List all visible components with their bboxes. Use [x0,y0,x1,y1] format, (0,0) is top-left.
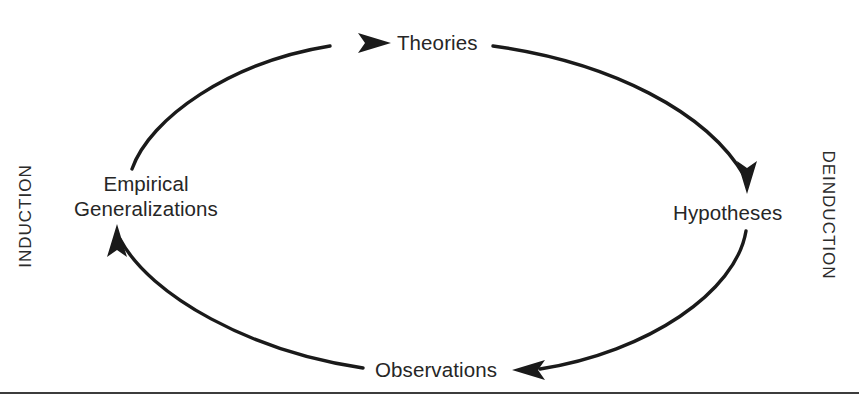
node-label-empirical-line2: Generalizations [62,196,230,221]
side-label-deinduction: DEINDUCTION [818,150,838,280]
arc-empirical-to-theories [132,46,330,169]
node-label-empirical-generalizations: Empirical Generalizations [62,171,230,221]
arrowhead-into-empirical [107,224,127,257]
node-label-theories: Theories [397,30,478,55]
bottom-divider-rule [0,392,859,394]
arc-observations-to-empirical [120,239,363,368]
node-label-empirical-line1: Empirical [62,171,230,196]
node-label-observations: Observations [375,357,497,382]
arrowhead-into-hypotheses [737,161,757,194]
arc-hypotheses-to-observations [540,231,746,369]
arrowhead-into-theories [358,33,391,53]
arc-theories-to-hypotheses [493,46,745,177]
node-label-hypotheses: Hypotheses [673,200,782,225]
side-label-induction: INDUCTION [16,161,36,271]
science-cycle-diagram: Theories Hypotheses Observations Empiric… [0,0,859,406]
